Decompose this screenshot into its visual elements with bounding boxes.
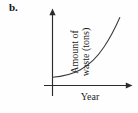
figure-container: b. Amount of waste (tons) Year [0, 0, 138, 113]
y-axis-label-line-2: waste (tons) [45, 12, 125, 92]
x-axis-label: Year [62, 91, 118, 103]
arrow-right-icon [126, 82, 133, 88]
y-axis-label: Amount of waste (tons) [23, 12, 51, 92]
